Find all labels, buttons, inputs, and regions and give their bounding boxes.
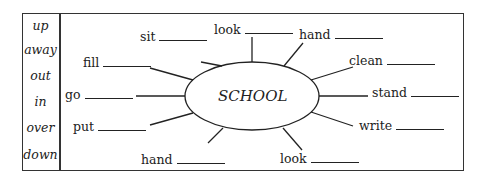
answer-blank[interactable]	[177, 163, 225, 164]
answer-blank[interactable]	[159, 40, 207, 41]
verb-look-top: look	[214, 22, 293, 37]
verb-go: go	[65, 87, 133, 102]
verb-sit: sit	[140, 29, 207, 44]
verb-put: put	[73, 119, 146, 134]
verb-clean: clean	[349, 53, 435, 68]
answer-blank[interactable]	[245, 33, 293, 34]
answer-blank[interactable]	[98, 130, 146, 131]
verb-hand-bottom: hand	[141, 152, 225, 167]
verb-stand: stand	[372, 85, 459, 100]
answer-blank[interactable]	[335, 38, 383, 39]
verb-look-bottom: look	[280, 151, 359, 166]
answer-blank[interactable]	[103, 66, 151, 67]
answer-blank[interactable]	[311, 162, 359, 163]
verb-hand-top: hand	[299, 27, 383, 42]
answer-blank[interactable]	[411, 96, 459, 97]
answer-blank[interactable]	[396, 129, 444, 130]
center-word: SCHOOL	[218, 87, 287, 105]
answer-blank[interactable]	[387, 64, 435, 65]
verb-write: write	[359, 118, 444, 133]
answer-blank[interactable]	[85, 98, 133, 99]
verb-fill: fill	[83, 55, 151, 70]
